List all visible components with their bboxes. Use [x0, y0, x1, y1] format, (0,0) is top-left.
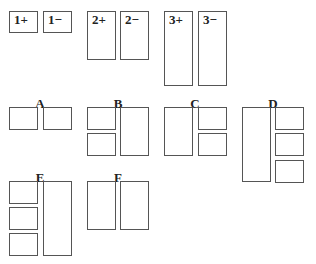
arrangement-D-box — [242, 107, 271, 182]
piece-2-: 2− — [120, 11, 149, 60]
arrangement-E-box — [9, 207, 38, 230]
arrangement-A-box — [43, 107, 72, 130]
piece-3+: 3+ — [164, 11, 193, 86]
arrangement-F-box — [87, 181, 116, 230]
piece-label: 2− — [125, 13, 139, 27]
arrangement-D-box — [275, 107, 304, 130]
arrangement-E-box — [9, 181, 38, 204]
arrangement-A-box — [9, 107, 38, 130]
arrangement-C-box — [198, 107, 227, 130]
piece-label: 1+ — [14, 13, 28, 27]
arrangement-B-box — [87, 133, 116, 156]
arrangement-D-box — [275, 160, 304, 183]
arrangement-B-box — [87, 107, 116, 130]
piece-3-: 3− — [198, 11, 227, 86]
arrangement-C-box — [164, 107, 193, 156]
arrangement-F-box — [120, 181, 149, 230]
piece-label: 3− — [203, 13, 217, 27]
piece-1+: 1+ — [9, 11, 38, 33]
piece-2+: 2+ — [87, 11, 116, 60]
arrangement-E-box — [43, 181, 72, 256]
piece-label: 2+ — [92, 13, 106, 27]
arrangement-D-box — [275, 133, 304, 156]
arrangement-B-box — [120, 107, 149, 156]
piece-label: 3+ — [169, 13, 183, 27]
piece-label: 1− — [48, 13, 62, 27]
piece-1-: 1− — [43, 11, 72, 33]
arrangement-C-box — [198, 133, 227, 156]
arrangement-E-box — [9, 233, 38, 256]
